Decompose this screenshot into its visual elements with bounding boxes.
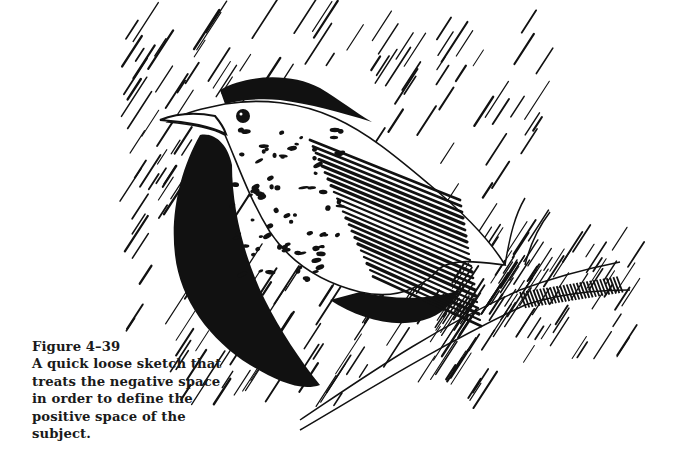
caption-line: in order to define the	[32, 390, 232, 407]
caption-line: A quick loose sketch that	[32, 355, 232, 372]
eye-icon	[236, 109, 250, 123]
figure-caption: Figure 4–39 A quick loose sketch that tr…	[32, 338, 232, 442]
caption-line: subject.	[32, 425, 232, 442]
figure-number: Figure 4–39	[32, 338, 232, 355]
caption-line: positive space of the	[32, 408, 232, 425]
caption-line: treats the negative space	[32, 373, 232, 390]
